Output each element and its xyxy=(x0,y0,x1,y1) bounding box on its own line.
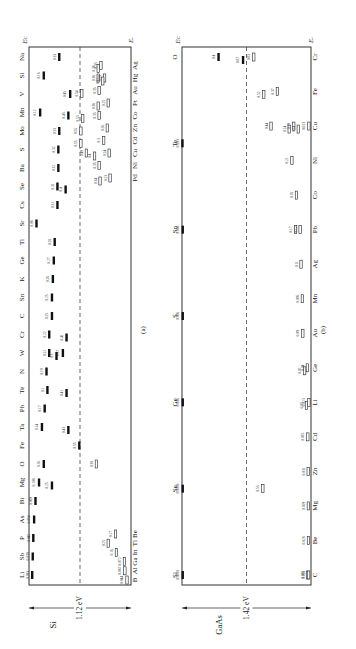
donor-level-marker xyxy=(33,516,35,524)
level-value: 0.32 xyxy=(52,165,56,171)
donor-level-marker xyxy=(32,534,34,542)
element-label-w: W xyxy=(18,349,26,356)
level-value: 0.023 xyxy=(302,122,306,130)
element-label-tl: Tl xyxy=(131,540,139,546)
element-label-co: Co xyxy=(311,191,319,200)
caption-b: (b) xyxy=(319,325,327,334)
element-label-o: O xyxy=(171,54,179,59)
arrowhead-icon xyxy=(182,606,187,609)
element-label-in: In xyxy=(131,549,139,555)
level-value: 0.36 xyxy=(92,65,96,71)
level-value: 0.25 xyxy=(45,294,49,300)
acceptor-level-marker xyxy=(307,433,309,441)
level-value: 0.026 xyxy=(302,571,306,579)
donor-level-marker xyxy=(46,386,48,394)
acceptor-level-marker xyxy=(270,122,272,130)
element-label-pb: Pb xyxy=(311,225,319,233)
level-value: 0.006 xyxy=(176,225,180,233)
level-value: 0.37 xyxy=(56,350,60,356)
acceptor-level-marker xyxy=(99,177,101,185)
acceptor-level-marker xyxy=(107,539,109,547)
level-value: 0.19 xyxy=(287,123,291,129)
element-label-ni: Ni xyxy=(131,162,139,169)
acceptor-level-marker xyxy=(307,502,309,510)
arrowhead-icon xyxy=(29,606,34,609)
arrowhead-icon xyxy=(306,606,311,609)
element-label-ag: Ag xyxy=(131,61,139,70)
acceptor-level-marker xyxy=(253,53,255,61)
level-value: 0.41 xyxy=(60,390,64,396)
element-label-ga: Ga xyxy=(131,557,139,566)
acceptor-level-marker xyxy=(299,226,301,234)
donor-level-marker xyxy=(182,398,184,406)
acceptor-level-marker xyxy=(108,149,110,157)
ec-label: Eᴄ xyxy=(174,35,182,44)
level-value: 0.17 xyxy=(109,531,113,537)
level-value: 0.16 xyxy=(290,192,294,198)
acceptor-level-marker xyxy=(308,398,310,406)
element-label-pt: Pt xyxy=(131,100,139,106)
impurity-levels-figure: EᴄEᵥ1.12 eVSiLiSbPAsBiMgOFeTaPbTeNWCrCSn… xyxy=(0,0,356,649)
level-value: 0.05 xyxy=(300,402,304,408)
acceptor-level-marker xyxy=(98,112,100,120)
level-value: 0.16 xyxy=(37,72,41,78)
panel-a xyxy=(29,47,131,610)
acceptor-level-marker xyxy=(95,460,97,468)
level-value: 0.49 xyxy=(80,150,84,156)
element-label-hg: Hg xyxy=(131,73,139,82)
level-value: 0.55 xyxy=(74,128,78,134)
level-value: 0.4 xyxy=(212,55,216,60)
donor-level-marker xyxy=(182,485,184,493)
level-value: 0.31 xyxy=(51,183,55,189)
level-value: 0.43 xyxy=(62,112,66,118)
level-value: 0.044 xyxy=(120,576,124,584)
donor-level-marker xyxy=(43,460,45,468)
ec-label: Eᴄ xyxy=(21,35,29,44)
level-value: 0.039 xyxy=(26,552,30,560)
element-label-co: Co xyxy=(131,111,139,120)
level-value: 0.26 xyxy=(101,125,105,131)
donor-level-marker xyxy=(242,56,244,64)
level-value: 0.38 xyxy=(90,461,94,467)
element-label-k: K xyxy=(18,276,26,281)
level-value: 0.55 xyxy=(74,140,78,146)
donor-level-marker xyxy=(32,553,34,561)
level-value: 0.28 xyxy=(48,239,52,245)
acceptor-level-marker xyxy=(80,140,82,148)
acceptor-level-marker xyxy=(93,152,95,160)
level-value: 0.22 xyxy=(43,350,47,356)
element-label-cd: Cd xyxy=(311,432,319,441)
level-value: 0.0059 xyxy=(176,484,180,494)
level-value: 0.14 xyxy=(35,424,39,430)
element-label-sn: Sn xyxy=(18,293,26,301)
bandgap-label: 1.12 eV xyxy=(75,596,84,620)
level-value: 0.44 xyxy=(265,123,269,129)
donor-level-marker xyxy=(54,238,56,246)
donor-level-marker xyxy=(67,112,69,120)
level-value: 0.67 xyxy=(236,57,240,63)
donor-level-marker xyxy=(56,201,58,209)
level-value: 0.19 xyxy=(40,368,44,374)
level-value: 0.25 xyxy=(102,100,106,106)
level-value: 0.069 xyxy=(29,497,33,505)
level-value: 0.006 xyxy=(176,398,180,406)
element-label-ti: Ti xyxy=(18,239,26,245)
element-label-ba: Ba xyxy=(18,163,26,172)
level-value: 0.54 xyxy=(75,90,79,96)
ev-label: Eᵥ xyxy=(307,37,315,44)
element-label-ag: Ag xyxy=(311,259,319,268)
element-label-cr: Cr xyxy=(18,330,26,338)
level-value: 0.08 xyxy=(30,220,34,226)
acceptor-level-marker xyxy=(300,260,302,268)
acceptor-level-marker xyxy=(307,467,309,475)
element-label-sr: Sr xyxy=(18,220,26,227)
level-value: 0.25 xyxy=(45,482,49,488)
donor-level-marker xyxy=(217,53,219,61)
level-value: 0.36 xyxy=(92,103,96,109)
donor-level-marker xyxy=(51,294,53,302)
level-value: 0.22 xyxy=(43,331,47,337)
donor-level-marker xyxy=(182,312,184,320)
level-value: 0.095 xyxy=(296,294,300,302)
element-label-cu: Cu xyxy=(311,121,319,130)
donor-level-marker xyxy=(52,275,54,283)
